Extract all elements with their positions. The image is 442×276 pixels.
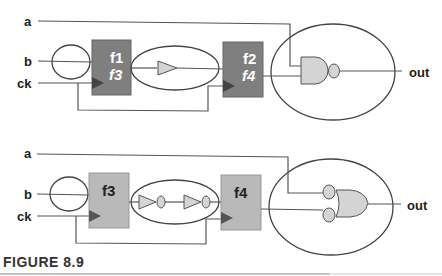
output-label: out xyxy=(409,65,430,80)
block-f1-label: f1 xyxy=(110,49,123,66)
buffer-gate-icon xyxy=(158,61,177,75)
figure-caption: FIGURE 8.9 xyxy=(3,254,84,270)
block-f2-label: f2 xyxy=(243,50,256,67)
inversion-bubble-icon xyxy=(157,196,165,208)
wire-b xyxy=(37,194,89,195)
inversion-bubble-icon xyxy=(329,64,340,78)
or-gate-icon xyxy=(336,190,368,217)
input-label-ck: ck xyxy=(17,209,32,224)
figure-canvas: a b ck f1 f3 f2 f4 out xyxy=(0,0,442,276)
nand-gate-icon xyxy=(301,57,328,84)
wire-buffer-out xyxy=(177,68,223,69)
wire-f4-out xyxy=(261,209,323,210)
input-label-a: a xyxy=(24,14,32,29)
inverter-gate-icon xyxy=(139,195,156,209)
inversion-bubble-icon xyxy=(323,185,335,199)
block-f3-label: f3 xyxy=(109,66,123,83)
wire-a xyxy=(37,154,323,193)
inverter-gate-icon xyxy=(184,195,201,209)
top-circuit: a b ck f1 f3 f2 f4 out xyxy=(17,14,430,120)
input-label-b: b xyxy=(24,187,32,202)
bottom-circuit: a b ck f3 f4 out xyxy=(17,146,428,255)
input-label-ck: ck xyxy=(17,76,32,91)
block-f4-label: f4 xyxy=(234,184,248,201)
wire-b xyxy=(38,61,92,62)
input-label-a: a xyxy=(24,146,32,161)
output-label: out xyxy=(407,198,428,213)
inversion-bubble-icon xyxy=(202,196,210,208)
block-f3-label: f3 xyxy=(102,182,115,199)
output-logic-cloud xyxy=(269,159,393,255)
inversion-bubble-icon xyxy=(323,208,335,222)
input-label-b: b xyxy=(24,54,32,69)
block-f4-label: f4 xyxy=(242,67,256,84)
